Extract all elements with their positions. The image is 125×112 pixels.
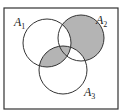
venn-diagram: A1 A2 A3	[0, 0, 125, 112]
